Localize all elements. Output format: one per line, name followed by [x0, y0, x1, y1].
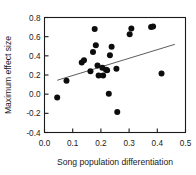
- x-tick-label: 0.4: [152, 139, 164, 148]
- regression-trendline: [57, 44, 175, 80]
- scatter-point: [87, 68, 93, 74]
- scatter-point: [104, 67, 110, 73]
- x-axis-title: Song population differentiation: [57, 157, 173, 167]
- chart-canvas: -0.4-0.20.00.20.40.60.8 0.00.10.20.30.40…: [0, 0, 196, 175]
- scatter-point: [113, 66, 119, 72]
- x-tick-label: 0.2: [95, 139, 107, 148]
- scatter-point: [63, 78, 69, 84]
- x-tick-label: 0.5: [180, 139, 192, 148]
- scatter-point: [159, 71, 165, 77]
- scatter-point: [107, 52, 113, 58]
- scatter-point: [109, 44, 115, 50]
- scatter-point: [150, 24, 156, 30]
- scatter-point: [54, 95, 60, 101]
- scatter-point: [128, 26, 134, 32]
- x-tick-label: 0.3: [123, 139, 135, 148]
- y-tick-label: -0.4: [26, 129, 41, 138]
- x-axis-tick-labels: 0.00.10.20.30.40.5: [39, 139, 192, 148]
- y-tick-label: 0.4: [29, 52, 41, 61]
- y-axis-tick-labels: -0.4-0.20.00.20.40.60.8: [26, 14, 41, 138]
- y-axis-title: Maximum effect size: [3, 36, 13, 114]
- scatter-point: [100, 72, 106, 78]
- scatter-point: [106, 91, 112, 97]
- y-axis-ticks: [45, 18, 49, 133]
- plot-frame: [45, 18, 186, 133]
- y-tick-label: 0.8: [29, 14, 41, 23]
- scatter-point: [114, 109, 120, 115]
- y-tick-label: -0.2: [26, 109, 41, 118]
- x-tick-label: 0.0: [39, 139, 51, 148]
- scatter-point: [90, 49, 96, 55]
- x-axis-ticks: [45, 129, 186, 133]
- scatter-point: [127, 31, 133, 37]
- scatter-points-group: [54, 24, 164, 115]
- scatter-plot-figure: -0.4-0.20.00.20.40.60.8 0.00.10.20.30.40…: [0, 0, 196, 175]
- scatter-point: [93, 42, 99, 48]
- scatter-point: [81, 57, 87, 63]
- y-tick-label: 0.2: [29, 71, 41, 80]
- y-tick-label: 0.6: [29, 33, 41, 42]
- x-tick-label: 0.1: [67, 139, 79, 148]
- y-tick-label: 0.0: [29, 90, 41, 99]
- scatter-point: [92, 26, 98, 32]
